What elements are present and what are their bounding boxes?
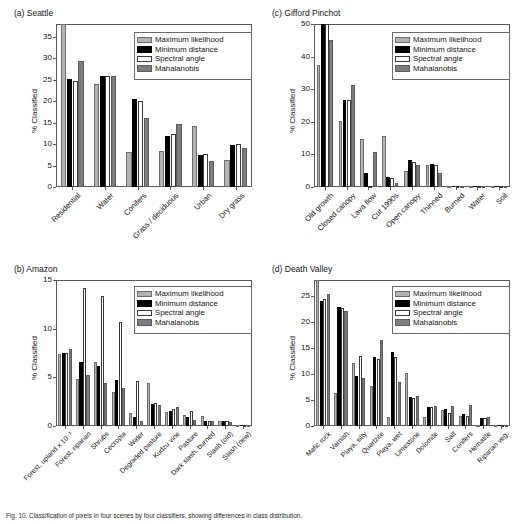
y-tick-mark (311, 374, 314, 375)
bar (434, 406, 437, 426)
legend-label: Maximum likelihood (413, 289, 481, 299)
y-tick-label: 5 (288, 395, 310, 404)
x-tick-mark (501, 426, 502, 429)
y-tick-mark (311, 400, 314, 401)
legend-item: Maximum likelihood (395, 289, 506, 299)
legend-label: Minimum distance (413, 299, 476, 309)
panel-death-valley: (d) Death Valley% Classified0510152025Ma… (0, 0, 520, 524)
bar (487, 417, 490, 426)
x-tick-mark (376, 426, 377, 429)
x-tick-mark (359, 426, 360, 429)
legend-item: Mahalanobis (395, 318, 506, 328)
y-tick-label: 0 (288, 421, 310, 430)
bar (380, 340, 383, 426)
x-tick-mark (412, 426, 413, 429)
y-tick-label: 10 (288, 369, 310, 378)
y-tick-label: 20 (288, 317, 310, 326)
x-tick-mark (323, 426, 324, 429)
legend-swatch-icon (395, 310, 410, 317)
legend-swatch-icon (395, 319, 410, 326)
figure-caption: Fig. 10. Classification of pixels in fou… (6, 512, 514, 520)
y-tick-mark (311, 348, 314, 349)
figure-classification-bars: (a) Seattle% Classified05101520253035Res… (0, 0, 520, 524)
y-tick-label: 15 (288, 343, 310, 352)
y-tick-mark (311, 296, 314, 297)
y-tick-mark (311, 322, 314, 323)
bar (505, 425, 508, 427)
legend-item: Spectral angle (395, 308, 506, 318)
x-tick-mark (448, 426, 449, 429)
legend-d: Maximum likelihoodMinimum distanceSpectr… (392, 286, 510, 334)
x-tick-mark (394, 426, 395, 429)
bar (362, 378, 365, 426)
legend-swatch-icon (395, 291, 410, 298)
y-tick-mark (311, 426, 314, 427)
x-tick-mark (483, 426, 484, 429)
bar (344, 311, 347, 426)
x-tick-mark (341, 426, 342, 429)
bar (451, 406, 454, 426)
bar (416, 396, 419, 426)
panel-title-d: (d) Death Valley (272, 264, 332, 274)
legend-label: Mahalanobis (413, 318, 457, 328)
y-tick-label: 25 (288, 291, 310, 300)
legend-item: Minimum distance (395, 299, 506, 309)
legend-swatch-icon (395, 300, 410, 307)
x-tick-mark (465, 426, 466, 429)
legend-label: Spectral angle (413, 308, 463, 318)
bar (327, 294, 330, 426)
bar (398, 382, 401, 426)
x-tick-mark (430, 426, 431, 429)
bar (469, 405, 472, 426)
